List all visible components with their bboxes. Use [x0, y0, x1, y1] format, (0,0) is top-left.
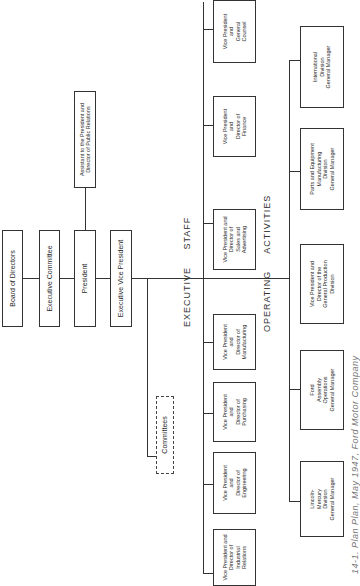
board-of-directors-box: Board of Directors [2, 230, 23, 327]
executive-staff-label: EXECUTIVE STAFF [182, 217, 192, 327]
vp-purchasing-box: Vice President and Director of Purchasin… [213, 382, 256, 442]
assistant-public-relations-box: Assistant to the President and Director … [74, 91, 96, 188]
connector [203, 342, 213, 343]
lincoln-mercury-division-box: Lincoln- Mercury Division General Manage… [300, 461, 344, 537]
vp-industrial-relations-box: Vice President and Director of Industria… [213, 529, 256, 586]
connector [132, 278, 260, 279]
executive-committee-box: Executive Committee [39, 230, 60, 327]
vp-sales-advertising-box: Vice President and Director of Sales and… [213, 209, 256, 270]
connector [147, 279, 148, 457]
connector [289, 389, 300, 390]
general-production-division-box: Vice President and Director of the Gener… [300, 244, 344, 324]
connector [289, 60, 290, 502]
connector [289, 501, 300, 502]
vp-manufacturing-box: Vice President and Director of Manufactu… [213, 314, 256, 370]
connector [96, 278, 110, 279]
connector [203, 29, 213, 30]
operating-activities-label: OPERATING ACTIVITIES [262, 195, 272, 332]
vp-finance-box: Vice President and Director of Finance [213, 96, 256, 157]
connector [203, 125, 213, 126]
international-division-box: International Division General Manager [300, 26, 344, 108]
connector [203, 413, 213, 414]
connector [85, 188, 86, 230]
connector [260, 278, 289, 279]
vp-engineering-box: Vice President and Director of Engineeri… [213, 452, 256, 514]
parts-equipment-division-box: Parts and Equipment Manufacturing Divisi… [300, 128, 344, 210]
connector [60, 278, 74, 279]
figure-caption: 14-1. Plan Plan, May 1947, Ford Motor Co… [350, 355, 360, 574]
vp-general-counsel-box: Vice President and General Counsel [213, 0, 256, 63]
connector [203, 573, 213, 574]
connector [203, 484, 213, 485]
connector [203, 2, 204, 574]
connector [289, 60, 300, 61]
committees-box: Committees [156, 396, 174, 474]
connector [23, 278, 39, 279]
executive-vice-president-box: Executive Vice President [110, 230, 132, 327]
connector [203, 223, 213, 224]
ford-assembly-operations-box: Ford Assembly Operations General Manager [300, 350, 344, 430]
connector [147, 456, 156, 457]
president-box: President [74, 230, 96, 327]
connector [289, 171, 300, 172]
